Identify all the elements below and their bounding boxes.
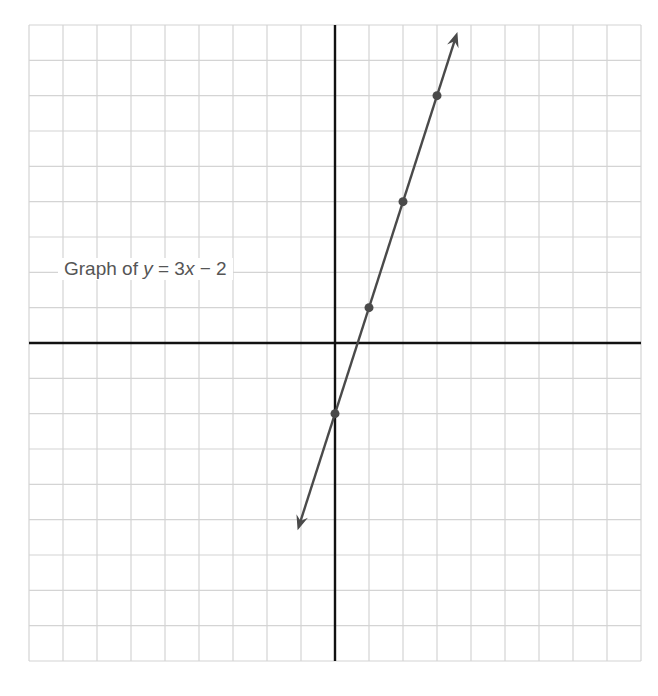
equation-label: Graph of y = 3x − 2: [58, 258, 233, 280]
axes: [29, 25, 641, 661]
data-line: [296, 32, 458, 530]
coordinate-plane: [0, 0, 658, 696]
data-point: [365, 303, 374, 312]
data-point: [399, 197, 408, 206]
data-point: [331, 409, 340, 418]
data-point: [433, 91, 442, 100]
